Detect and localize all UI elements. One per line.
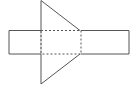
right-rectangle bbox=[81, 31, 129, 55]
left-rectangle bbox=[9, 31, 41, 55]
bottom-triangle-hypotenuse bbox=[41, 54, 80, 84]
geometric-net-diagram bbox=[0, 0, 137, 92]
top-triangle-hypotenuse bbox=[41, 1, 80, 31]
center-dashed-rectangle bbox=[41, 31, 81, 55]
